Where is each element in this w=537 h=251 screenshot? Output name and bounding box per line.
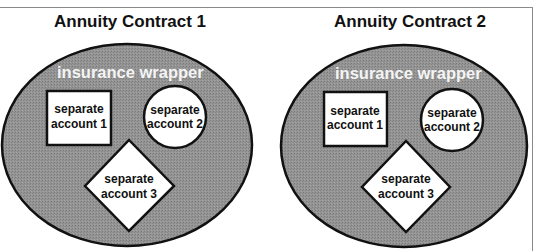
- account-3-line1: separate: [381, 172, 431, 186]
- contract-2-group: insurance wrapper separate account 1 sep…: [281, 45, 527, 247]
- account-2-line2: account 2: [424, 120, 480, 134]
- wrapper-label-1: insurance wrapper: [57, 63, 204, 81]
- wrapper-label-2: insurance wrapper: [335, 64, 482, 82]
- account-3-line2: account 3: [101, 187, 157, 201]
- account-1-line2: account 1: [51, 117, 107, 131]
- account-1-line1: separate: [330, 104, 380, 118]
- account-2-line1: separate: [427, 106, 477, 120]
- annuity-diagram: insurance wrapper separate account 1 sep…: [0, 0, 537, 251]
- account-1-line1: separate: [54, 102, 104, 116]
- contract-1-group: insurance wrapper separate account 1 sep…: [2, 44, 252, 246]
- account-3-line2: account 3: [378, 187, 434, 201]
- account-3-line1: separate: [104, 172, 154, 186]
- account-2-line2: account 2: [147, 117, 203, 131]
- account-2-line1: separate: [150, 103, 200, 117]
- account-1-line2: account 1: [327, 118, 383, 132]
